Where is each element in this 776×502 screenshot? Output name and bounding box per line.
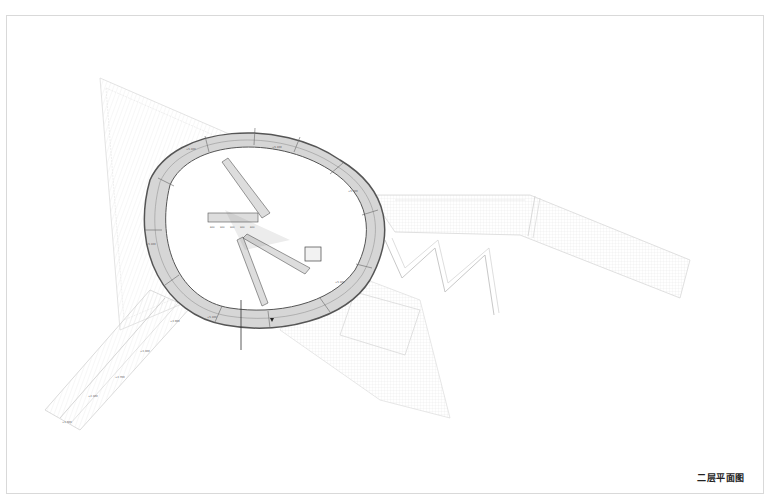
elevation-label: +5.100 [348, 190, 358, 193]
dimension-label: 600 [250, 226, 255, 229]
dimension-label: 900 [220, 226, 225, 229]
walkway-southwest: +3.900 +3.300 +2.700 +2.100 +1.500 [45, 290, 190, 430]
elevation-label: +5.100 [335, 281, 345, 284]
dimension-label: 900 [240, 226, 245, 229]
bridge-east [370, 195, 690, 298]
elevation-label: +1.500 [62, 421, 72, 424]
elevation-label: +2.100 [88, 395, 98, 398]
elevation-label: +3.900 [170, 320, 180, 323]
floor-plan-drawing: +3.900 +3.300 +2.700 +2.100 +1.500 +5.10… [0, 0, 776, 502]
elevation-label: +2.700 [115, 376, 125, 379]
elevation-label: +5.100 [186, 148, 196, 151]
dimension-label: 900 [230, 226, 235, 229]
dimension-label: 600 [210, 226, 215, 229]
drawing-title: 二层平面图 [697, 471, 745, 484]
elevation-label: +5.100 [207, 316, 217, 319]
elevation-label: +5.100 [272, 146, 282, 149]
elevation-label: +5.100 [146, 243, 156, 246]
elevation-label: +3.300 [140, 350, 150, 353]
